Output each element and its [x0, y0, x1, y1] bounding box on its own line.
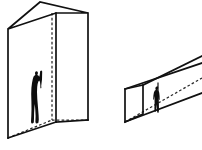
tall-slab-side-face	[56, 13, 88, 122]
diagram-canvas	[0, 0, 202, 150]
scale-comparison-diagram	[0, 0, 202, 150]
shape-tall-slab	[8, 2, 88, 138]
